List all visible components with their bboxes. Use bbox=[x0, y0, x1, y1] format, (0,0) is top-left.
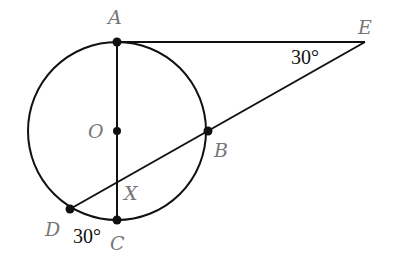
label-e: E bbox=[357, 16, 372, 38]
label-o: O bbox=[88, 120, 104, 142]
angle-label-d: 30° bbox=[73, 225, 101, 247]
segment-ed bbox=[70, 42, 365, 209]
point-o bbox=[113, 127, 121, 135]
label-x: X bbox=[122, 182, 139, 204]
geometry-diagram: A E O B X D C 30° 30° bbox=[0, 0, 395, 257]
label-d: D bbox=[44, 218, 60, 240]
angle-label-e: 30° bbox=[291, 46, 319, 68]
point-a bbox=[113, 38, 122, 47]
label-a: A bbox=[106, 6, 122, 28]
point-d bbox=[66, 205, 75, 214]
point-c bbox=[113, 216, 122, 225]
label-b: B bbox=[213, 139, 228, 161]
point-b bbox=[204, 127, 213, 136]
label-c: C bbox=[110, 232, 125, 254]
